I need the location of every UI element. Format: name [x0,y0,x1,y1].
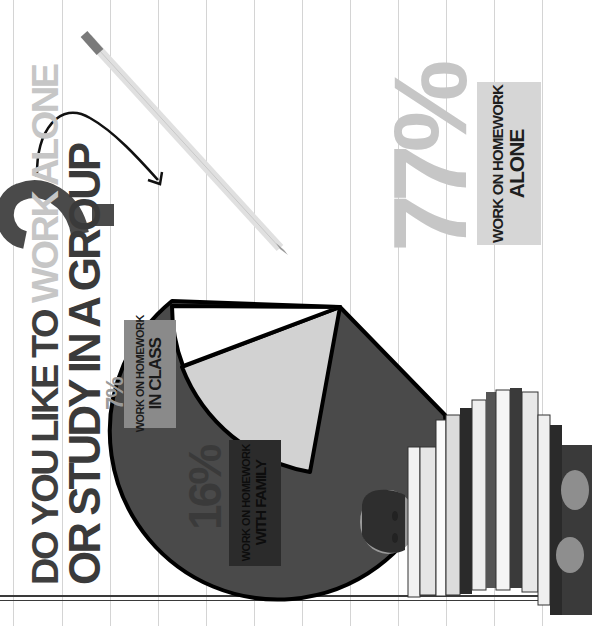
pencil-icon [84,34,288,255]
title-line-2: OR STUDY IN A GROUP [60,145,110,585]
label-alone: WORK ON HOMEWORK ALONE [477,82,541,245]
label-class-line2: IN CLASS [147,315,165,432]
alone-percent: 77% [378,68,482,252]
title-line-2-text: OR STUDY IN A GROUP [60,145,109,585]
label-alone-line1: WORK ON HOMEWORK [490,84,506,242]
label-family: WORK ON HOMEWORK WITH FAMILY [229,440,281,566]
label-alone-line2: ALONE [506,84,528,242]
label-family-line2: WITH FAMILY [253,444,269,561]
family-percent: 16% [178,447,232,530]
label-class: WORK ON HOMEWORK IN CLASS [124,320,176,428]
